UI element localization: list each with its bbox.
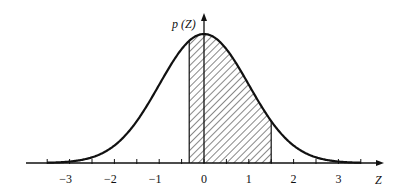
x-tick-label: 2: [291, 172, 297, 186]
x-tick-label: −3: [59, 172, 72, 186]
y-axis-arrow-icon: [201, 13, 207, 21]
x-axis-arrow-icon: [376, 160, 384, 166]
y-axis-title: p (Z): [171, 17, 196, 31]
x-tick-label: 0: [201, 172, 207, 186]
x-tick-label: −2: [104, 172, 117, 186]
x-tick-label: −1: [149, 172, 162, 186]
normal-distribution-chart: −3−2−10123 Z p (Z): [0, 0, 410, 193]
x-tick-label: 3: [335, 172, 341, 186]
x-tick-label: 1: [246, 172, 252, 186]
x-axis-title: Z: [375, 173, 382, 187]
x-axis: −3−2−10123 Z: [26, 159, 384, 187]
